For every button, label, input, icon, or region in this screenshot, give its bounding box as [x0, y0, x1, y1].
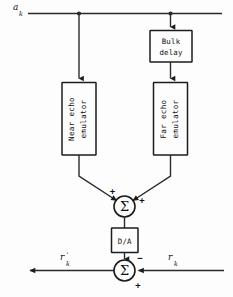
label-ak: a k [13, 2, 23, 18]
label-ak-base: a [13, 2, 18, 12]
block-near-echo-emulator-label-line2: emulator [79, 99, 88, 138]
wire-far-echo-to-summer [133, 155, 171, 201]
block-d-a-converter-label: D/A [118, 237, 132, 246]
block-far-echo-emulator-label-line1: Far echo [159, 99, 168, 138]
label-rk-prime-base: r [60, 252, 65, 262]
label-ak-subscript: k [19, 10, 23, 18]
label-rk: r k [168, 252, 178, 268]
block-bulk-delay-label-line2: delay [159, 48, 183, 57]
summer-output-plus-sign: + [135, 280, 141, 290]
summer-output-minus-sign: − [137, 253, 143, 263]
label-rk-subscript: k [174, 260, 178, 268]
label-rk-prime: r ' k [60, 251, 70, 268]
diagram-canvas: Bulk delay Near echo emulator Far echo e… [0, 0, 233, 297]
summer-echo-plus-left: + [110, 186, 116, 196]
summer-output-sigma-glyph: Σ [120, 263, 129, 278]
block-near-echo-emulator-label-line1: Near echo [67, 97, 76, 141]
label-rk-prime-mark: ' [67, 251, 69, 259]
block-diagram-svg: Bulk delay Near echo emulator Far echo e… [0, 0, 233, 297]
summer-echo-plus-right: + [139, 195, 145, 205]
label-rk-prime-subscript: k [66, 260, 70, 268]
block-bulk-delay[interactable] [150, 31, 192, 63]
block-far-echo-emulator-label-line2: emulator [171, 99, 180, 138]
block-bulk-delay-label-line1: Bulk [162, 37, 181, 46]
label-rk-base: r [168, 252, 173, 262]
summer-echo-sigma-glyph: Σ [120, 199, 129, 214]
